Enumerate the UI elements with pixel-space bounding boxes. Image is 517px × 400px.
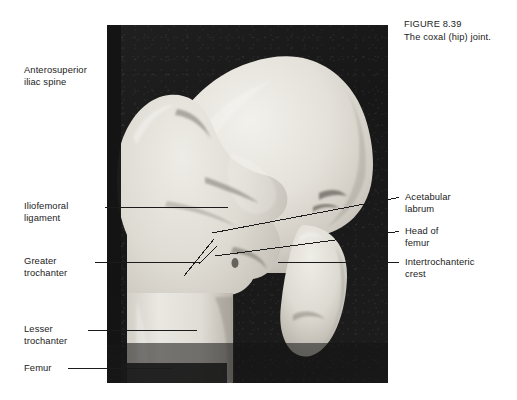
label-line-2: ligament (24, 212, 68, 224)
label-lesser-trochanter: Lesser trochanter (24, 323, 67, 348)
label-greater-trochanter: Greater trochanter (24, 255, 67, 280)
plate-left-shadow-band (107, 25, 121, 345)
specimen-photograph (107, 25, 388, 383)
label-line-1: Lesser (24, 323, 67, 335)
label-line-2: labrum (405, 203, 451, 215)
label-iliofemoral-ligament: Iliofemoral ligament (24, 200, 68, 225)
label-line-1: Greater (24, 255, 67, 267)
label-line-2: iliac spine (24, 76, 87, 88)
label-intertrochanteric-crest: Intertrochanteric crest (405, 256, 474, 281)
label-line-2: trochanter (24, 267, 67, 279)
label-line-1: Iliofemoral (24, 200, 68, 212)
label-line-2: crest (405, 268, 474, 280)
label-femur: Femur (24, 362, 52, 374)
label-line-1: Anterosuperior (24, 64, 87, 76)
label-head-of-femur: Head of femur (405, 225, 439, 250)
label-line-1: Acetabular (405, 191, 451, 203)
lesser-trochanter-pit (232, 258, 239, 268)
figure-number: FIGURE 8.39 (404, 18, 516, 31)
plate-bottom-left-block (121, 363, 227, 383)
figure-title: The coxal (hip) joint. (404, 31, 516, 44)
label-line-2: trochanter (24, 335, 67, 347)
label-line-2: femur (405, 237, 439, 249)
label-anterosuperior-iliac-spine: Anterosuperior iliac spine (24, 64, 87, 89)
label-line-1: Intertrochanteric (405, 256, 474, 268)
label-line-1: Head of (405, 225, 439, 237)
label-line-1: Femur (24, 362, 52, 374)
figure-caption: FIGURE 8.39 The coxal (hip) joint. (404, 18, 516, 43)
bone-specimen-illustration (107, 25, 388, 383)
label-acetabular-labrum: Acetabular labrum (405, 191, 451, 216)
figure-panel: FIGURE 8.39 The coxal (hip) joint. (0, 0, 517, 400)
